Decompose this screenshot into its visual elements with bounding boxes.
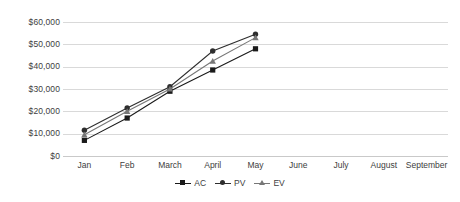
triangle-marker-icon <box>254 178 270 188</box>
line-chart: $0$10,000$20,000$30,000$40,000$50,000$60… <box>0 0 460 202</box>
x-axis-tick-label: August <box>371 160 397 171</box>
legend-item-ev[interactable]: EV <box>254 178 284 188</box>
legend-label: AC <box>193 178 206 188</box>
x-axis-tick-label: Jan <box>78 160 92 171</box>
data-point-ev <box>81 132 87 138</box>
data-point-ac <box>210 67 215 72</box>
square-marker-icon <box>175 178 191 188</box>
x-axis-line <box>63 156 448 157</box>
data-point-ac <box>125 115 130 120</box>
series-layer <box>63 22 448 156</box>
x-axis-tick-label: April <box>204 160 221 171</box>
y-axis-tick-label: $50,000 <box>2 40 60 49</box>
y-axis-labels: $0$10,000$20,000$30,000$40,000$50,000$60… <box>0 0 60 202</box>
y-axis-tick-label: $0 <box>2 152 60 161</box>
x-axis-tick-label: July <box>333 160 348 171</box>
x-axis-tick-label: September <box>406 160 448 171</box>
x-axis-tick-label: March <box>158 160 182 171</box>
x-axis-tick-label: May <box>247 160 263 171</box>
legend-label: EV <box>272 178 284 188</box>
y-axis-tick-label: $40,000 <box>2 62 60 71</box>
legend-item-pv[interactable]: PV <box>215 178 245 188</box>
data-point-ev <box>210 58 216 64</box>
data-point-pv <box>210 48 215 53</box>
data-point-ac <box>253 46 258 51</box>
x-axis-labels: JanFebMarchAprilMayJuneJulyAugustSeptemb… <box>63 160 448 174</box>
y-axis-tick-label: $30,000 <box>2 85 60 94</box>
y-axis-tick-label: $20,000 <box>2 107 60 116</box>
y-axis-tick-label: $10,000 <box>2 129 60 138</box>
x-axis-tick-label: Feb <box>120 160 135 171</box>
series-line-ac <box>84 49 255 141</box>
legend-label: PV <box>233 178 245 188</box>
circle-marker-icon <box>215 178 231 188</box>
data-point-ac <box>82 138 87 143</box>
chart-legend: ACPVEV <box>0 178 460 188</box>
legend-item-ac[interactable]: AC <box>175 178 206 188</box>
x-axis-tick-label: June <box>289 160 307 171</box>
series-line-pv <box>84 34 255 130</box>
y-axis-tick-label: $60,000 <box>2 18 60 27</box>
